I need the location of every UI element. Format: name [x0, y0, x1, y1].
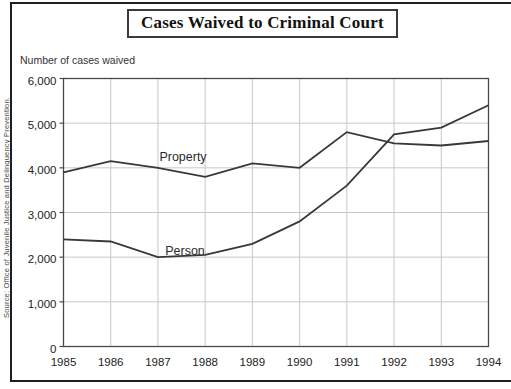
- person-series-label: Person: [165, 244, 205, 258]
- x-tick-label: 1988: [192, 356, 218, 368]
- y-tick-label: 1,000: [28, 298, 57, 310]
- figure-page: Source: Office of Juvenile Justice and D…: [0, 0, 511, 389]
- x-tick-label: 1992: [381, 356, 407, 368]
- y-tick-label: 0: [50, 343, 56, 355]
- y-tick-label: 4,000: [28, 164, 57, 176]
- y-tick-label: 5,000: [28, 119, 57, 131]
- x-tick-label: 1987: [145, 356, 171, 368]
- x-tick-label: 1990: [287, 356, 313, 368]
- x-tick-label: 1989: [240, 356, 266, 368]
- x-tick-label: 1986: [98, 356, 124, 368]
- x-tick-label: 1993: [428, 356, 454, 368]
- y-tick-label: 3,000: [28, 209, 57, 221]
- line-chart: 01,0002,0003,0004,0005,0006,000198519861…: [0, 0, 511, 389]
- y-tick-label: 2,000: [28, 253, 57, 265]
- property-line: [64, 132, 489, 177]
- y-tick-label: 6,000: [28, 75, 57, 87]
- property-series-label: Property: [159, 150, 207, 164]
- x-tick-label: 1985: [51, 356, 77, 368]
- x-tick-label: 1991: [334, 356, 360, 368]
- person-line: [64, 105, 489, 257]
- x-tick-label: 1994: [476, 356, 502, 368]
